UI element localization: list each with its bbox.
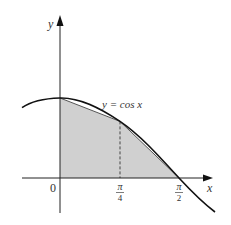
origin-label: 0 xyxy=(50,181,56,195)
curve-label: y = cos x xyxy=(101,98,142,110)
y-axis-label: y xyxy=(47,17,54,31)
x-axis-label: x xyxy=(206,181,213,195)
cos-trapezoid-diagram: y x 0 y = cos x π 4 π 2 xyxy=(0,0,231,225)
tick-pi-over-2-denominator: 2 xyxy=(177,193,182,203)
tick-pi-over-4-denominator: 4 xyxy=(118,193,123,203)
tick-pi-over-2-numerator: π xyxy=(176,181,182,192)
y-axis-arrow-icon xyxy=(57,15,64,26)
tick-pi-over-4-numerator: π xyxy=(117,181,123,192)
